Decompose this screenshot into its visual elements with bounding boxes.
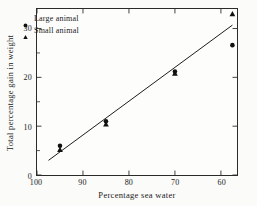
fitted-regression-line xyxy=(48,25,232,160)
x-tick-label: 100 xyxy=(30,178,43,187)
legend-entry: Small animal xyxy=(22,26,79,35)
data-point xyxy=(230,43,235,48)
y-axis-title: Total percentage gain in weight xyxy=(5,12,15,174)
y-tick-label: 20 xyxy=(12,73,32,82)
x-axis-title: Percentage sea water xyxy=(36,190,238,200)
data-point xyxy=(230,11,236,16)
chart-legend: Large animalSmall animal xyxy=(22,14,79,35)
x-tick-label: 90 xyxy=(78,178,86,187)
legend-label: Large animal xyxy=(34,14,79,23)
x-tick-label: 60 xyxy=(218,178,226,187)
y-tick-label: 10 xyxy=(12,122,32,131)
legend-label: Small animal xyxy=(34,26,79,35)
x-tick-label: 80 xyxy=(125,178,133,187)
circle-marker-icon xyxy=(22,15,29,22)
scatter-plot-figure: Total percentage gain in weight 0102030 … xyxy=(0,0,257,206)
x-tick-label: 70 xyxy=(171,178,179,187)
data-points xyxy=(57,11,235,152)
triangle-marker-icon xyxy=(22,27,29,34)
data-point xyxy=(57,147,63,152)
legend-entry: Large animal xyxy=(22,14,79,23)
